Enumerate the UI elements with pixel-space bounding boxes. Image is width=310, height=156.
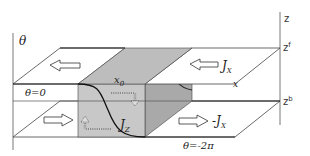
theta-zero-label: θ=0 (25, 88, 46, 98)
jx-top-sub: X (227, 67, 232, 75)
theta-axis-label: θ (19, 35, 26, 47)
bottom-plane-zb-label: zb (283, 96, 293, 107)
x-axis-label: x (233, 80, 238, 89)
zf-sup: f (288, 41, 290, 49)
theta-minus-two-pi-label: θ=-2π (183, 141, 214, 151)
zb-sup: b (288, 95, 292, 103)
z-axis-label: z (284, 14, 289, 24)
jx-bottom-base: -J (212, 114, 221, 128)
jx-top-label: JX (222, 60, 232, 75)
jx-bottom-label: -JX (212, 115, 226, 130)
jx-bottom-sub: X (221, 122, 226, 130)
jz-sub: Z (125, 126, 130, 134)
x0-label: x0 (114, 75, 124, 88)
top-plane-zf-label: zf (283, 42, 291, 53)
diagram-canvas (0, 0, 310, 156)
x0-sub: 0 (120, 80, 124, 88)
jz-label: JZ (120, 119, 130, 134)
